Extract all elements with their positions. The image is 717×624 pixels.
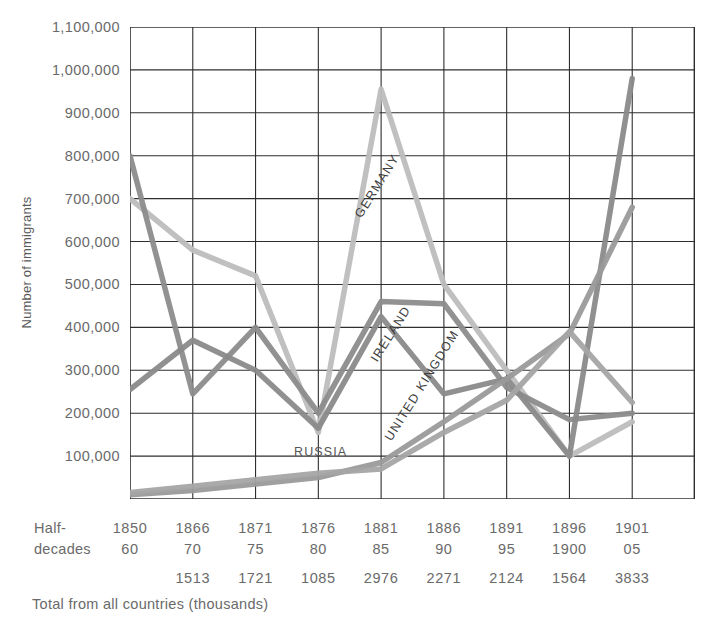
x-period-end-year: 05 [588,541,676,557]
half-decades-label-line2: decades [34,541,91,557]
y-tick-label: 200,000 [65,405,120,421]
half-decades-label-line1: Half- [34,520,66,536]
y-tick-label: 400,000 [65,319,120,335]
plot-area: GERMANYIRELANDUNITED KINGDOMRUSSIA [130,27,695,499]
x-period-start-year: 1901 [588,520,676,536]
y-tick-label: 900,000 [65,105,120,121]
plot-svg [130,27,695,499]
y-axis-tick-labels: 1,100,0001,000,000900,000800,000700,0006… [28,0,120,520]
y-tick-label: 1,000,000 [52,62,120,78]
y-tick-label: 300,000 [65,362,120,378]
y-tick-label: 1,100,000 [52,19,120,35]
y-tick-label: 700,000 [65,191,120,207]
x-axis-block: Half- decades 18506018667015131871751721… [0,520,717,624]
x-period-total: 3833 [588,570,676,586]
y-tick-label: 800,000 [65,148,120,164]
totals-footnote: Total from all countries (thousands) [32,596,268,612]
y-tick-label: 500,000 [65,276,120,292]
chart-root: Number of immigrants 1,100,0001,000,0009… [0,0,717,624]
y-tick-label: 100,000 [65,448,120,464]
y-tick-label: 600,000 [65,234,120,250]
series-label-russia: RUSSIA [294,445,347,459]
